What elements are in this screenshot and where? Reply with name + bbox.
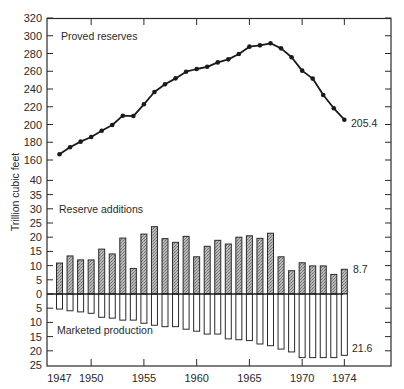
reserve-addition-bar bbox=[57, 263, 63, 294]
reserves-data-point bbox=[68, 145, 73, 150]
reserves-data-point bbox=[310, 76, 315, 81]
marketed-production-bar bbox=[194, 294, 200, 331]
marketed-production-bar bbox=[109, 294, 115, 318]
y-tick-label: 20 bbox=[30, 345, 42, 357]
reserves-data-point bbox=[289, 55, 294, 60]
reserves-data-point bbox=[205, 65, 210, 70]
reserve-addition-bar bbox=[236, 237, 242, 294]
reserve-addition-bar bbox=[88, 260, 94, 294]
y-tick-label: 180 bbox=[24, 136, 42, 148]
reserve-addition-bar bbox=[320, 266, 326, 294]
reserve-addition-bar bbox=[225, 244, 231, 294]
marketed-production-label: Marketed production bbox=[57, 324, 153, 336]
y-tick-label: 10 bbox=[30, 316, 42, 328]
marketed-production-bar bbox=[246, 294, 252, 341]
reserves-data-point bbox=[173, 76, 178, 81]
reserve-addition-bar bbox=[99, 249, 105, 294]
reserves-data-point bbox=[142, 102, 147, 107]
reserves-data-point bbox=[342, 117, 347, 122]
reserves-data-point bbox=[131, 114, 136, 119]
reserve-addition-bar bbox=[289, 271, 295, 294]
marketed-production-bar bbox=[173, 294, 179, 327]
reserves-data-point bbox=[215, 60, 220, 65]
marketed-production-bar bbox=[278, 294, 284, 349]
reserve-addition-bar bbox=[278, 257, 284, 294]
reserve-addition-bar bbox=[183, 236, 189, 294]
y-tick-label: 300 bbox=[24, 30, 42, 42]
reserve-addition-bar bbox=[78, 260, 84, 294]
reserves-data-point bbox=[89, 135, 94, 140]
marketed-production-bar bbox=[120, 294, 126, 320]
x-tick-label: 1955 bbox=[132, 372, 156, 384]
reserve-additions-end-value: 8.7 bbox=[353, 263, 368, 275]
x-tick-label: 1970 bbox=[290, 372, 314, 384]
reserve-addition-bar bbox=[67, 256, 73, 294]
reserve-addition-bar bbox=[341, 269, 347, 294]
marketed-production-bar bbox=[299, 294, 305, 358]
proved-reserves-line bbox=[57, 41, 346, 157]
proved-reserves-label: Proved reserves bbox=[61, 30, 137, 42]
reserve-addition-bar bbox=[299, 263, 305, 294]
y-tick-label: 10 bbox=[30, 260, 42, 272]
marketed-production-bar bbox=[341, 294, 347, 355]
marketed-production-bar bbox=[204, 294, 210, 334]
reserves-data-point bbox=[163, 82, 168, 87]
marketed-production-bar bbox=[320, 294, 326, 358]
y-tick-label: 280 bbox=[24, 48, 42, 60]
reserves-data-point bbox=[110, 123, 115, 128]
reserve-additions-label: Reserve additions bbox=[59, 203, 143, 215]
reserves-data-point bbox=[184, 69, 189, 74]
reserve-addition-bar bbox=[120, 238, 126, 294]
reserves-data-point bbox=[194, 67, 199, 72]
x-tick-label: 1947 bbox=[47, 372, 71, 384]
reserves-data-point bbox=[121, 113, 126, 118]
y-tick-label: 160 bbox=[24, 154, 42, 166]
x-tick-label: 1960 bbox=[184, 372, 208, 384]
reserve-addition-bar bbox=[246, 236, 252, 294]
y-tick-label: 15 bbox=[30, 245, 42, 257]
marketed-production-bar bbox=[141, 294, 147, 323]
y-tick-label: 5 bbox=[36, 302, 42, 314]
reserve-addition-bar bbox=[109, 254, 115, 294]
y-tick-label: 200 bbox=[24, 119, 42, 131]
y-tick-label: 35 bbox=[30, 189, 42, 201]
marketed-production-bar bbox=[67, 294, 73, 311]
marketed-production-bar bbox=[331, 294, 337, 358]
reserves-data-point bbox=[152, 90, 157, 95]
reserves-data-point bbox=[300, 68, 305, 73]
reserve-addition-bar bbox=[141, 234, 147, 294]
reserves-data-point bbox=[57, 152, 62, 157]
reserve-addition-bar bbox=[310, 266, 316, 294]
reserves-data-point bbox=[78, 139, 83, 144]
marketed-production-bar bbox=[183, 294, 189, 329]
reserves-polyline bbox=[60, 43, 345, 154]
x-tick-label: 1950 bbox=[79, 372, 103, 384]
reserve-addition-bar bbox=[204, 246, 210, 294]
y-tick-label: 25 bbox=[30, 217, 42, 229]
y-tick-label: 20 bbox=[30, 231, 42, 243]
reserve-addition-bar bbox=[173, 242, 179, 294]
proved-reserves-end-value: 205.4 bbox=[351, 117, 377, 129]
y-axis-title: Trillion cubic feet bbox=[9, 153, 21, 231]
marketed-production-bar bbox=[257, 294, 263, 344]
marketed-production-bar bbox=[78, 294, 84, 312]
y-tick-label: 40 bbox=[30, 174, 42, 186]
bar-series bbox=[57, 227, 348, 358]
natural-gas-reserves-chart: 160180200220240260280300320 403530252015… bbox=[0, 0, 404, 389]
y-tick-label: 25 bbox=[30, 359, 42, 371]
reserve-addition-bar bbox=[194, 257, 200, 294]
chart-canvas: 160180200220240260280300320 403530252015… bbox=[0, 0, 404, 389]
marketed-production-bar bbox=[289, 294, 295, 352]
x-tick-label: 1974 bbox=[332, 372, 356, 384]
y-tick-label: 320 bbox=[24, 12, 42, 24]
reserve-addition-bar bbox=[257, 238, 263, 294]
marketed-production-bar bbox=[57, 294, 63, 309]
y-tick-label: 0 bbox=[36, 288, 42, 300]
reserve-addition-bar bbox=[162, 239, 168, 294]
reserves-data-point bbox=[268, 41, 273, 46]
y-tick-label: 30 bbox=[30, 203, 42, 215]
marketed-production-bar bbox=[268, 294, 274, 346]
marketed-production-end-value: 21.6 bbox=[352, 342, 373, 354]
y-tick-label: 5 bbox=[36, 274, 42, 286]
reserves-data-point bbox=[332, 106, 337, 111]
